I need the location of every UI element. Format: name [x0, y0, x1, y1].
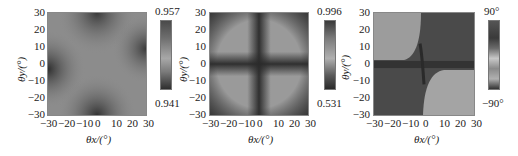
x-tick: 0 — [257, 118, 263, 129]
panel-1: θy/(°) 30 20 10 0 −10 −20 −30 −30 −20 −1… — [0, 0, 172, 156]
x-axis-label: θx/(°) — [414, 133, 439, 145]
y-tick: 10 — [184, 41, 206, 52]
y-tick: 20 — [184, 24, 206, 35]
y-tick: 0 — [348, 58, 370, 69]
heatmap-plot — [47, 12, 147, 116]
x-tick: 0 — [95, 118, 101, 129]
x-tick: −10 — [238, 118, 255, 129]
y-tick: −10 — [348, 75, 370, 86]
y-tick: 30 — [23, 7, 45, 18]
x-tick: −30 — [202, 118, 219, 129]
colorbar-min-label: −90° — [482, 98, 504, 109]
x-tick: 20 — [455, 118, 466, 129]
y-tick: −10 — [23, 75, 45, 86]
y-tick: 30 — [184, 7, 206, 18]
x-tick: −10 — [402, 118, 419, 129]
x-axis-label: θx/(°) — [248, 133, 273, 145]
x-tick: −10 — [76, 118, 93, 129]
panel-2: θy/(°) 30 20 10 0 −10 −20 −30 — [170, 0, 342, 156]
x-tick: −20 — [58, 118, 75, 129]
y-tick: 10 — [348, 41, 370, 52]
colorbar — [324, 20, 336, 90]
x-tick: 10 — [439, 118, 450, 129]
colorbar-min-label: 0.531 — [317, 98, 342, 109]
y-tick: −20 — [348, 92, 370, 103]
x-tick: 20 — [289, 118, 300, 129]
x-tick: 30 — [471, 118, 482, 129]
x-tick: 10 — [273, 118, 284, 129]
x-tick: 30 — [143, 118, 154, 129]
x-tick: 30 — [305, 118, 316, 129]
panel-3: θy/(°) 30 20 10 0 −10 −20 −30 −30 −20 −1… — [340, 0, 512, 156]
x-tick: −30 — [40, 118, 57, 129]
colorbar-max-label: 90° — [484, 6, 499, 17]
heatmap-plot — [373, 12, 475, 116]
colorbar — [488, 20, 500, 90]
x-axis-label: θx/(°) — [86, 133, 111, 145]
colorbar-max-label: 0.996 — [317, 6, 342, 17]
y-tick: −20 — [184, 92, 206, 103]
y-tick: 30 — [348, 7, 370, 18]
x-tick: 10 — [111, 118, 122, 129]
y-tick: 10 — [23, 41, 45, 52]
y-tick: 0 — [23, 58, 45, 69]
y-tick: 20 — [348, 24, 370, 35]
heatmap-plot — [209, 12, 309, 116]
x-tick: 0 — [423, 118, 429, 129]
x-tick: −20 — [220, 118, 237, 129]
x-tick: 20 — [127, 118, 138, 129]
y-tick: 0 — [184, 58, 206, 69]
x-tick: −20 — [384, 118, 401, 129]
y-tick: −20 — [23, 92, 45, 103]
x-tick: −30 — [366, 118, 383, 129]
y-tick: 20 — [23, 24, 45, 35]
y-tick: −10 — [184, 75, 206, 86]
